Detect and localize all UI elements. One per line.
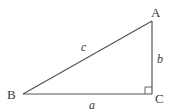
vertex-label-b: B <box>7 87 16 102</box>
right-angle-marker <box>145 87 152 94</box>
side-c-hypotenuse <box>23 21 152 94</box>
side-label-b: b <box>157 52 163 66</box>
vertex-label-c: C <box>155 91 164 106</box>
side-label-c: c <box>81 40 87 54</box>
right-triangle-diagram: A B C c b a <box>0 0 173 111</box>
side-label-a: a <box>89 98 95 111</box>
vertex-label-a: A <box>151 5 161 20</box>
